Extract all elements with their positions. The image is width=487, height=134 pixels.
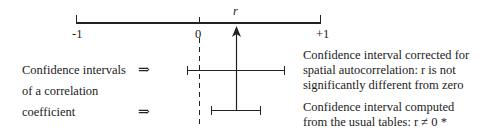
lower-interval-desc-line2: from the usual tables: r ≠ 0 * — [303, 114, 447, 130]
arrow-lower-icon: ⇒ — [138, 104, 150, 120]
estimate-label: r — [233, 4, 238, 19]
lower-interval-desc-line1: Confidence interval computed — [303, 99, 454, 115]
axis-max-label: +1 — [316, 27, 329, 42]
axis-min-label: -1 — [72, 27, 82, 42]
upper-interval-desc-line3: significantly different from zero — [303, 77, 463, 93]
arrow-upper-icon: ⇒ — [138, 62, 150, 78]
left-caption-line3: coefficient — [22, 104, 75, 120]
left-caption-line1: Confidence intervals — [22, 62, 126, 78]
upper-interval-desc-line1: Confidence interval corrected for — [303, 47, 469, 63]
left-caption-line2: of a correlation — [22, 83, 98, 99]
axis-zero-label: 0 — [195, 27, 201, 42]
upper-interval-desc-line2: spatial autocorrelation: r is not — [303, 62, 456, 78]
